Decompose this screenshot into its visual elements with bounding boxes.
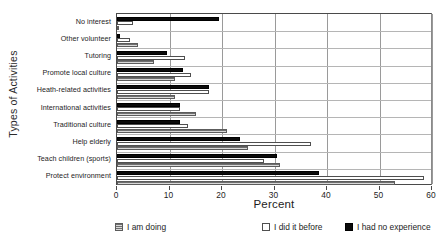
- bar: [117, 56, 185, 60]
- bar: [117, 129, 227, 133]
- vertical-gridline: [432, 14, 433, 184]
- bar-group: [117, 14, 431, 31]
- y-axis-tick-label: Protect environment: [14, 172, 111, 180]
- y-axis-tick-label: Tutoring: [14, 52, 111, 60]
- bar: [117, 103, 180, 107]
- bar: [117, 77, 175, 81]
- bar: [117, 73, 191, 77]
- plot-area: [116, 13, 432, 185]
- bar-group: [117, 100, 431, 117]
- bar: [117, 163, 280, 167]
- bar: [117, 181, 395, 185]
- bar-group: [117, 152, 431, 169]
- bar-group: [117, 66, 431, 83]
- x-axis-title: Percent: [116, 198, 432, 210]
- legend-label: I had no experience: [357, 222, 431, 232]
- y-axis-tick-label: Other volunteer: [14, 35, 111, 43]
- y-axis-category-labels: No interestOther volunteerTutoringPromot…: [14, 13, 111, 185]
- bar: [117, 68, 183, 72]
- legend-label: I am doing: [127, 222, 166, 232]
- bar-group: [117, 117, 431, 134]
- y-axis-tick-label: Promote local culture: [14, 69, 111, 77]
- bar: [117, 17, 219, 21]
- bar: [117, 159, 264, 163]
- bar: [117, 146, 248, 150]
- bar: [117, 142, 311, 146]
- bar: [117, 120, 180, 124]
- bar: [117, 85, 209, 89]
- bar: [117, 43, 138, 47]
- bar: [117, 137, 240, 141]
- bar: [117, 95, 175, 99]
- bar: [117, 112, 196, 116]
- bar: [117, 90, 209, 94]
- bar: [117, 51, 167, 55]
- legend-item[interactable]: I did it before: [262, 222, 322, 232]
- bar-group: [117, 169, 431, 186]
- bar: [117, 154, 277, 158]
- legend-item[interactable]: I am doing: [115, 222, 166, 232]
- bar: [117, 26, 119, 30]
- y-axis-tick-label: Traditional culture: [14, 121, 111, 129]
- x-axis-ticks: 0102030405060: [116, 186, 432, 198]
- legend-swatch-icon: [345, 223, 353, 231]
- bar-group: [117, 31, 431, 48]
- legend-swatch-icon: [115, 223, 123, 231]
- bar: [117, 124, 188, 128]
- bar: [117, 107, 180, 111]
- bar: [117, 171, 319, 175]
- bar: [117, 60, 154, 64]
- legend-swatch-icon: [262, 223, 270, 231]
- bar-chart: Types of Activities No interestOther vol…: [0, 0, 438, 246]
- bar-group: [117, 134, 431, 151]
- bar: [117, 34, 120, 38]
- bar: [117, 38, 130, 42]
- chart-legend: I am doingI did it beforeI had no experi…: [0, 222, 438, 238]
- y-axis-tick-label: Heath-related activities: [14, 86, 111, 94]
- legend-label: I did it before: [274, 222, 322, 232]
- bar-group: [117, 83, 431, 100]
- y-axis-tick-label: No interest: [14, 18, 111, 26]
- y-axis-tick-label: International activities: [14, 104, 111, 112]
- bar-group: [117, 48, 431, 65]
- y-axis-tick-label: Help elderly: [14, 138, 111, 146]
- y-axis-tick-label: Teach children (sports): [14, 155, 111, 163]
- bar: [117, 176, 424, 180]
- legend-item[interactable]: I had no experience: [345, 222, 431, 232]
- bar: [117, 21, 133, 25]
